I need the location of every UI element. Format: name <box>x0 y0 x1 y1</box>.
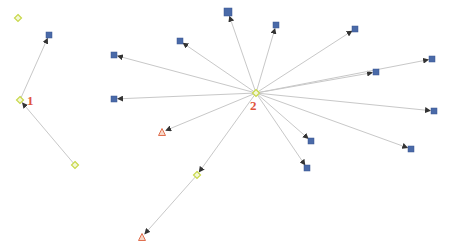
edge-n2-to-sq-e <box>256 29 275 93</box>
square-node-icon[interactable] <box>273 22 279 28</box>
square-node-icon[interactable] <box>352 26 358 32</box>
labels-layer: 12 <box>27 93 257 113</box>
nodes-layer <box>15 8 438 241</box>
diamond-node-icon[interactable] <box>15 15 22 22</box>
triangle-node-icon[interactable] <box>159 129 166 136</box>
edge-n2-to-sq-i <box>256 93 430 111</box>
network-graph: 12 <box>0 0 451 252</box>
edge-n-left-bottom-to-n1 <box>23 103 75 165</box>
edge-n2-to-sq-d <box>118 93 256 99</box>
node-label-1: 1 <box>27 93 34 108</box>
diamond-node-icon[interactable] <box>17 97 24 104</box>
square-node-icon[interactable] <box>429 56 435 62</box>
square-node-icon[interactable] <box>431 108 437 114</box>
edges-layer <box>20 17 430 234</box>
square-node-icon[interactable] <box>111 96 117 102</box>
square-node-icon[interactable] <box>408 146 414 152</box>
edge-n2-to-sq-a <box>230 17 256 93</box>
square-node-icon[interactable] <box>224 8 232 16</box>
square-node-icon[interactable] <box>308 138 314 144</box>
edge-n2-to-sq-b <box>183 43 256 93</box>
edge-n1-to-n-left-square <box>20 39 47 100</box>
node-label-2: 2 <box>250 98 257 113</box>
edge-dm-mid-to-tri-b <box>145 175 197 234</box>
square-node-icon[interactable] <box>177 38 183 44</box>
square-node-icon[interactable] <box>111 52 117 58</box>
edge-n2-to-sq-c <box>118 56 256 93</box>
square-node-icon[interactable] <box>304 165 310 171</box>
square-node-icon[interactable] <box>373 69 379 75</box>
triangle-node-icon[interactable] <box>139 234 146 241</box>
square-node-icon[interactable] <box>46 32 52 38</box>
edge-n2-to-sq-l <box>256 93 407 148</box>
